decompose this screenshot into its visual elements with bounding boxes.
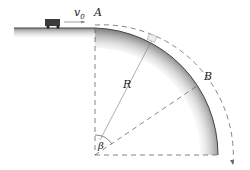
cart-icon: [45, 19, 60, 29]
ground-surface: [14, 28, 95, 40]
point-b-label: B: [204, 70, 212, 83]
curved-surface: [95, 28, 218, 155]
angle-label: β: [98, 140, 104, 151]
point-a-label: A: [94, 6, 102, 19]
radius-label: R: [123, 78, 131, 91]
velocity-label: v0: [74, 6, 85, 21]
